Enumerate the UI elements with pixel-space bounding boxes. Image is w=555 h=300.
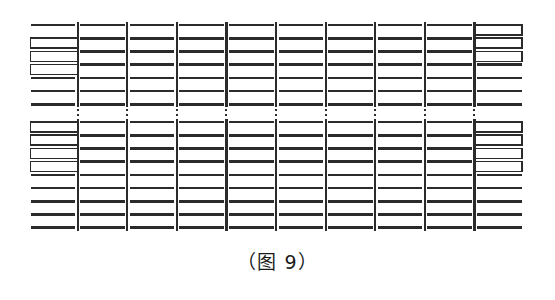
vertical-ellipsis-dot	[176, 109, 178, 111]
vertical-ellipsis-dot	[126, 109, 128, 111]
vertical-ellipsis-dot	[77, 119, 79, 121]
vertical-ellipsis-dot	[225, 104, 227, 106]
vertical-ellipsis-dot	[374, 109, 376, 111]
vertical-ellipsis-dot	[225, 114, 227, 116]
figure-container: （图 9）	[0, 0, 555, 300]
vertical-ellipsis-dot	[424, 114, 426, 116]
vertical-ellipsis-dot	[473, 119, 475, 121]
vertical-ellipsis-dot	[275, 104, 277, 106]
vertical-ellipsis-dot	[126, 114, 128, 116]
figure-caption: （图 9）	[0, 247, 555, 274]
vertical-ellipsis-dot	[275, 114, 277, 116]
vertical-ellipsis-dot	[176, 104, 178, 106]
vertical-ellipsis-dot	[176, 119, 178, 121]
vertical-ellipsis-dot	[325, 104, 327, 106]
vertical-ellipsis-dot	[126, 119, 128, 121]
vertical-ellipsis-dot	[77, 109, 79, 111]
vertical-ellipsis-dot	[275, 119, 277, 121]
vertical-ellipsis-dot	[77, 104, 79, 106]
vertical-ellipsis-dot	[374, 114, 376, 116]
vertical-ellipsis-dot	[374, 104, 376, 106]
vertical-ellipsis-dot	[275, 109, 277, 111]
vertical-ellipsis-dot	[325, 114, 327, 116]
vertical-ellipsis-dot	[77, 114, 79, 116]
vertical-ellipsis-dot	[473, 114, 475, 116]
vertical-ellipsis-dot	[473, 104, 475, 106]
vertical-ellipsis-dot	[374, 119, 376, 121]
vertical-ellipsis-dot	[473, 109, 475, 111]
vertical-ellipsis-dot	[424, 109, 426, 111]
vertical-ellipsis-dot	[126, 104, 128, 106]
vertical-ellipsis-dot	[176, 114, 178, 116]
vertical-ellipsis-dot	[225, 109, 227, 111]
vertical-ellipsis-dot	[325, 119, 327, 121]
vertical-ellipsis-dot	[424, 104, 426, 106]
vertical-ellipsis-dot	[225, 119, 227, 121]
vertical-ellipsis-dot	[325, 109, 327, 111]
vertical-ellipsis-dot	[424, 119, 426, 121]
